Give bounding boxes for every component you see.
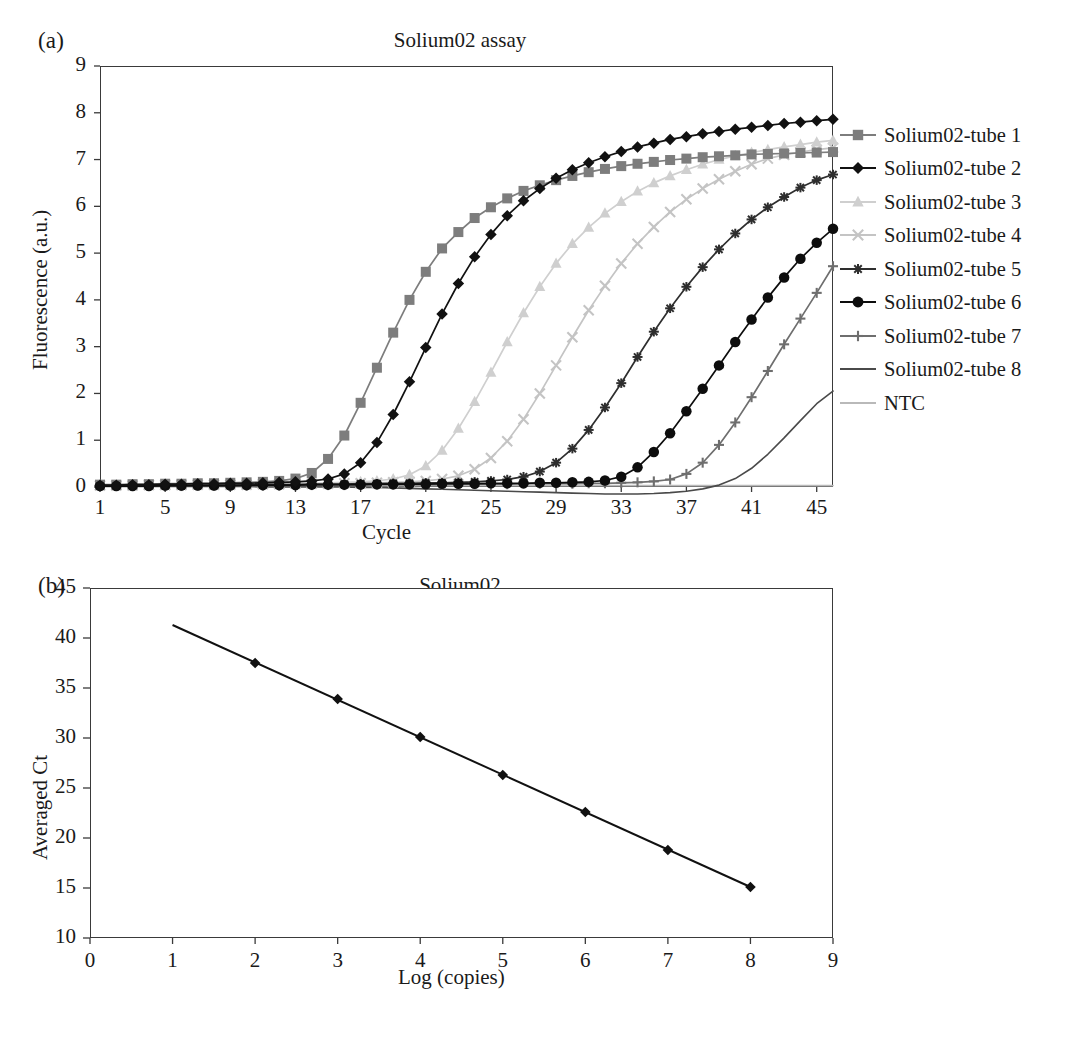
panel-a-ytick: 6 — [48, 192, 86, 217]
panel-a-xtick: 13 — [270, 495, 320, 520]
legend-item[interactable]: Solium02-tube 3 — [838, 185, 1063, 219]
panel-a-xtick: 1 — [75, 495, 125, 520]
legend-item-label: Solium02-tube 4 — [884, 225, 1021, 246]
legend-item-label: Solium02-tube 5 — [884, 259, 1021, 280]
panel-a-xtick: 21 — [401, 495, 451, 520]
legend-item[interactable]: Solium02-tube 2 — [838, 152, 1063, 186]
series-5 — [95, 170, 838, 491]
panel-a-ytick: 8 — [48, 99, 86, 124]
panel-a-xtick: 17 — [336, 495, 386, 520]
legend-line-swatch — [838, 393, 878, 413]
legend-plus-marker — [838, 326, 878, 346]
legend-item[interactable]: NTC — [838, 386, 1063, 420]
legend-item[interactable]: Solium02-tube 4 — [838, 219, 1063, 253]
panel-a-ytick: 2 — [48, 379, 86, 404]
panel-b-ytick: 45 — [32, 574, 76, 599]
panel-a-ytick: 3 — [48, 333, 86, 358]
panel-b-ytick: 15 — [32, 874, 76, 899]
panel-b-xtick: 3 — [313, 948, 363, 973]
series-7 — [95, 261, 838, 491]
panel-b-xtick: 0 — [65, 948, 115, 973]
legend-asterisk-marker — [838, 259, 878, 279]
panel-a-xtick: 5 — [140, 495, 190, 520]
legend-item-label: Solium02-tube 8 — [884, 359, 1021, 380]
legend-item[interactable]: Solium02-tube 1 — [838, 118, 1063, 152]
figure-container: (a) Solium02 assay 159131721252933374145… — [0, 0, 1065, 1040]
legend-item-label: Solium02-tube 1 — [884, 125, 1021, 146]
panel-a-xtick: 9 — [205, 495, 255, 520]
panel-b-ylabel: Averaged Ct — [28, 755, 53, 860]
legend-item-label: NTC — [884, 393, 925, 414]
series-1 — [95, 147, 838, 490]
panel-b: (b) Solium02 01234567891015202530354045 … — [0, 555, 1065, 1040]
series-6 — [95, 224, 839, 492]
panel-b-xtick: 1 — [148, 948, 198, 973]
legend-item-label: Solium02-tube 7 — [884, 326, 1021, 347]
trendline — [173, 625, 751, 887]
series-3 — [95, 134, 839, 489]
series-4 — [95, 143, 838, 491]
legend-diamond-marker — [838, 158, 878, 178]
panel-a-xtick: 33 — [596, 495, 646, 520]
legend-item[interactable]: Solium02-tube 8 — [838, 353, 1063, 387]
legend-cross-marker — [838, 225, 878, 245]
panel-b-ytick: 10 — [32, 924, 76, 949]
panel-a-ytick: 7 — [48, 146, 86, 171]
panel-a-ylabel: Fluorescence (a.u.) — [28, 210, 53, 370]
panel-b-ytick: 35 — [32, 674, 76, 699]
panel-a: (a) Solium02 assay 159131721252933374145… — [0, 0, 1065, 560]
panel-b-ytick: 30 — [32, 724, 76, 749]
legend-triangle-marker — [838, 192, 878, 212]
legend-item[interactable]: Solium02-tube 7 — [838, 319, 1063, 353]
panel-a-xlabel: Cycle — [362, 520, 411, 545]
panel-b-xtick: 6 — [560, 948, 610, 973]
legend: Solium02-tube 1Solium02-tube 2Solium02-t… — [838, 118, 1063, 420]
legend-item-label: Solium02-tube 3 — [884, 192, 1021, 213]
legend-line-swatch — [838, 359, 878, 379]
legend-item-label: Solium02-tube 6 — [884, 292, 1021, 313]
panel-b-ytick: 40 — [32, 624, 76, 649]
panel-b-xtick: 2 — [230, 948, 280, 973]
panel-a-ytick: 1 — [48, 426, 86, 451]
legend-item[interactable]: Solium02-tube 6 — [838, 286, 1063, 320]
panel-a-xtick: 45 — [792, 495, 842, 520]
panel-a-xtick: 29 — [531, 495, 581, 520]
panel-b-xlabel: Log (copies) — [398, 965, 505, 990]
legend-item[interactable]: Solium02-tube 5 — [838, 252, 1063, 286]
panel-b-xtick: 9 — [808, 948, 858, 973]
legend-item-label: Solium02-tube 2 — [884, 158, 1021, 179]
panel-a-xtick: 41 — [727, 495, 777, 520]
legend-circle-marker — [838, 292, 878, 312]
panel-a-xtick: 25 — [466, 495, 516, 520]
panel-a-ytick: 4 — [48, 286, 86, 311]
data-points — [250, 658, 756, 893]
panel-b-xtick: 8 — [725, 948, 775, 973]
panel-b-xtick: 7 — [643, 948, 693, 973]
panel-a-ytick: 5 — [48, 239, 86, 264]
panel-a-xtick: 37 — [661, 495, 711, 520]
panel-a-ytick: 0 — [48, 473, 86, 498]
panel-a-ytick: 9 — [48, 52, 86, 77]
legend-square-marker — [838, 125, 878, 145]
